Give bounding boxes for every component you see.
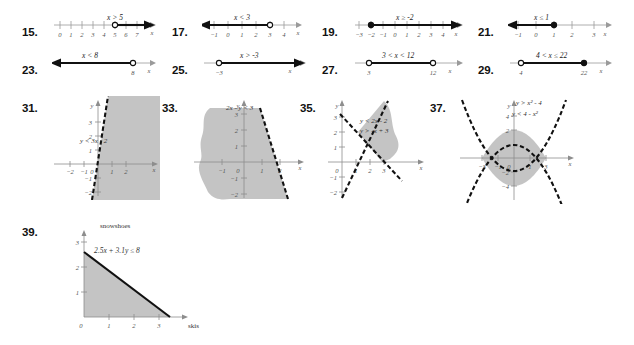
graph-svg-39: 1 2 3 0 1 2 3 — [54, 222, 204, 337]
svg-text:4: 4 — [519, 69, 523, 76]
svg-text:3: 3 — [234, 111, 239, 118]
svg-text:−1: −1 — [218, 167, 226, 174]
svg-text:−1: −1 — [84, 175, 92, 182]
svg-text:0: 0 — [335, 167, 339, 174]
inequality-label-27: 3 < x < 12 — [382, 51, 414, 60]
svg-text:−4: −4 — [501, 183, 509, 190]
problem-number-37: 37. — [430, 102, 445, 114]
svg-text:x: x — [448, 67, 452, 74]
svg-text:12: 12 — [430, 69, 437, 76]
svg-text:−3: −3 — [355, 31, 363, 38]
number-line-17: x < 3 −1 0 1 2 3 4 x — [202, 14, 302, 40]
svg-text:4: 4 — [282, 31, 286, 38]
svg-text:5: 5 — [113, 31, 117, 38]
svg-text:3: 3 — [591, 31, 596, 38]
number-line-svg-17: −1 0 1 2 3 4 x — [202, 14, 302, 40]
svg-text:2: 2 — [368, 167, 372, 174]
svg-text:3: 3 — [366, 69, 371, 76]
number-line-svg-21: −1 0 1 2 3 x — [508, 14, 612, 40]
graph-33: 2x - y < 3 — [188, 96, 306, 206]
svg-text:x: x — [419, 164, 423, 171]
svg-text:0: 0 — [79, 322, 83, 329]
svg-text:1: 1 — [405, 31, 408, 38]
svg-text:y: y — [335, 102, 339, 109]
graph-svg-31: −2 −1 1 2 0 1 2 3 −1 −2 x y — [48, 96, 160, 200]
problem-number-29: 29. — [478, 64, 493, 76]
inequality-label-15: x > 5 — [107, 13, 123, 22]
svg-text:x: x — [454, 30, 458, 37]
svg-text:x: x — [296, 29, 300, 36]
svg-text:2: 2 — [132, 322, 136, 329]
svg-text:3: 3 — [75, 239, 80, 246]
graph-39: snowshoes skis 2.5x + 3.1y ≤ 8 — [54, 222, 204, 341]
problem-number-35: 35. — [300, 102, 315, 114]
problem-number-21: 21. — [478, 26, 493, 38]
inequality-label-31: y < 3x - 2 — [80, 137, 107, 145]
inequality-label-35-b: y > -x + 3 — [360, 127, 389, 135]
number-line-23: x < 8 8 x — [52, 52, 156, 78]
inequality-label-37-a: y > x² - 4 — [516, 99, 542, 107]
problem-number-19: 19. — [322, 26, 337, 38]
svg-text:−1: −1 — [80, 168, 88, 175]
svg-text:x: x — [298, 164, 302, 171]
svg-text:6: 6 — [124, 31, 128, 38]
svg-text:−2: −2 — [66, 168, 74, 175]
graph-svg-35: 1 2 3 0 1 2 3 −1 −2 x y — [322, 96, 432, 202]
svg-text:7: 7 — [135, 31, 139, 38]
svg-text:0: 0 — [226, 31, 230, 38]
svg-text:2: 2 — [80, 31, 84, 38]
svg-text:−1: −1 — [230, 175, 238, 182]
svg-text:2: 2 — [570, 31, 574, 38]
svg-text:−1: −1 — [514, 31, 522, 38]
svg-text:4: 4 — [506, 113, 510, 120]
graph-37: y > x² - 4 y < 4 - x² — [452, 96, 580, 208]
problem-number-33: 33. — [162, 102, 177, 114]
svg-text:x: x — [599, 67, 603, 74]
inequality-label-25: x > -3 — [240, 51, 258, 60]
svg-text:4: 4 — [441, 31, 445, 38]
inequality-label-17: x < 3 — [234, 13, 250, 22]
graph-35: y < 2x - 2 y > -x + 3 — [322, 96, 432, 206]
svg-text:x: x — [603, 30, 607, 37]
svg-text:1: 1 — [110, 168, 113, 175]
svg-text:3: 3 — [381, 167, 386, 174]
svg-text:y: y — [90, 102, 94, 109]
svg-text:−3: −3 — [215, 69, 223, 76]
svg-text:−1: −1 — [379, 31, 387, 38]
svg-text:3: 3 — [156, 322, 161, 329]
svg-text:3: 3 — [428, 31, 433, 38]
svg-text:4: 4 — [102, 31, 106, 38]
svg-text:−3: −3 — [478, 163, 486, 170]
problem-number-27: 27. — [322, 64, 337, 76]
number-line-15: x > 5 0 1 2 3 4 5 6 7 — [52, 14, 156, 40]
number-line-21: x ≤ 1 −1 0 1 2 3 x — [508, 14, 612, 40]
problem-number-15: 15. — [22, 26, 37, 38]
svg-text:3: 3 — [543, 163, 548, 170]
number-line-19: x ≥ -2 −3 −2 −1 0 1 2 3 4 — [353, 14, 463, 40]
svg-text:0: 0 — [393, 31, 397, 38]
svg-text:1: 1 — [107, 322, 110, 329]
svg-text:2: 2 — [254, 31, 258, 38]
inequality-label-19: x ≥ -2 — [396, 13, 413, 22]
svg-text:x: x — [150, 29, 154, 36]
svg-text:1: 1 — [552, 31, 555, 38]
svg-text:x: x — [568, 160, 572, 167]
number-line-25: x > -3 −3 x — [202, 52, 306, 78]
svg-text:3: 3 — [333, 114, 338, 121]
svg-text:−2: −2 — [84, 189, 92, 196]
svg-text:1: 1 — [235, 143, 238, 150]
answer-key-page: 15. x > 5 0 1 2 3 4 5 — [0, 0, 634, 345]
svg-text:−2: −2 — [367, 31, 375, 38]
svg-text:1: 1 — [69, 31, 72, 38]
inequality-label-23: x < 8 — [82, 51, 98, 60]
svg-text:0: 0 — [58, 31, 62, 38]
graph-31: y < 3x - 2 — [48, 96, 160, 204]
svg-text:2: 2 — [76, 264, 80, 271]
inequality-label-29: 4 < x ≤ 22 — [536, 51, 567, 60]
svg-text:0: 0 — [534, 31, 538, 38]
svg-text:x: x — [288, 67, 292, 74]
inequality-label-33: 2x - y < 3 — [226, 104, 253, 112]
number-line-29: 4 < x ≤ 22 4 22 x — [508, 52, 618, 78]
problem-number-17: 17. — [172, 26, 187, 38]
svg-text:8: 8 — [131, 69, 135, 76]
